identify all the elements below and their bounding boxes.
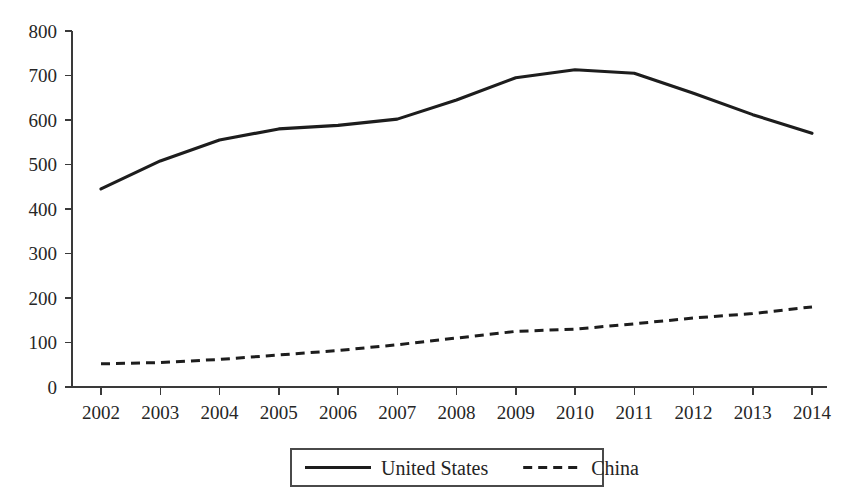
y-tick-label: 200	[29, 288, 58, 309]
y-tick-label: 600	[29, 110, 58, 131]
x-tick-label: 2004	[201, 402, 240, 423]
x-tick-label: 2009	[497, 402, 535, 423]
x-tick-label: 2014	[793, 402, 832, 423]
x-tick-label: 2012	[675, 402, 713, 423]
y-axis-tick-labels: 0100200300400500600700800	[29, 21, 58, 398]
x-tick-label: 2006	[319, 402, 357, 423]
y-axis-ticks	[65, 31, 72, 387]
series-line-china	[101, 307, 812, 364]
legend-label-china: China	[591, 457, 639, 479]
x-tick-label: 2003	[141, 402, 179, 423]
x-tick-label: 2002	[82, 402, 120, 423]
y-tick-label: 400	[29, 199, 58, 220]
x-tick-label: 2008	[438, 402, 476, 423]
y-tick-label: 700	[29, 65, 58, 86]
x-axis-tick-labels: 2002200320042005200620072008200920102011…	[82, 402, 832, 423]
series-line-united-states	[101, 70, 812, 189]
data-series-group	[101, 70, 812, 364]
y-tick-label: 500	[29, 154, 58, 175]
legend-items: United StatesChina	[305, 457, 639, 479]
x-tick-label: 2011	[616, 402, 653, 423]
line-chart: 0100200300400500600700800 20022003200420…	[0, 0, 847, 496]
chart-canvas: 0100200300400500600700800 20022003200420…	[0, 0, 847, 496]
chart-legend: United StatesChina	[291, 449, 639, 486]
x-tick-label: 2007	[378, 402, 416, 423]
x-tick-label: 2010	[556, 402, 594, 423]
y-tick-label: 0	[48, 377, 58, 398]
x-tick-label: 2005	[260, 402, 298, 423]
y-tick-label: 800	[29, 21, 58, 42]
y-tick-label: 100	[29, 332, 58, 353]
x-axis-ticks	[101, 387, 812, 395]
x-tick-label: 2013	[734, 402, 772, 423]
legend-label-united-states: United States	[381, 457, 488, 479]
y-tick-label: 300	[29, 243, 58, 264]
